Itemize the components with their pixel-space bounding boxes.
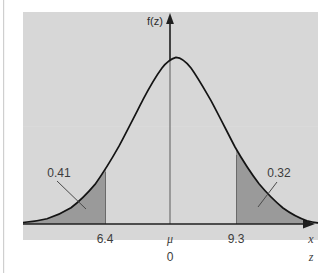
x-tick-label-right: 9.3 (228, 232, 245, 246)
page-edge-rule (3, 0, 4, 273)
normal-curve-figure: f(z) 0.41 0.32 6.4 μ 0 9.3 x z (0, 0, 332, 273)
x-tick-label-left: 6.4 (97, 232, 114, 246)
left-area-annotation: 0.41 (47, 166, 71, 180)
y-axis-label: f(z) (147, 15, 163, 27)
x-tick-label-mean: μ (166, 232, 173, 246)
right-area-annotation: 0.32 (267, 166, 291, 180)
z-axis-variable-label: z (308, 250, 314, 264)
figure-canvas: f(z) 0.41 0.32 6.4 μ 0 9.3 x z (0, 0, 332, 273)
z-tick-label-zero: 0 (167, 250, 174, 264)
x-axis-variable-label: x (307, 232, 314, 246)
